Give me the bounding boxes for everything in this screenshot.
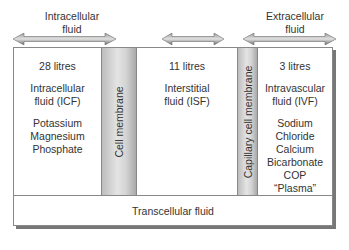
header-line: Intracellular: [22, 10, 122, 23]
capillary-membrane-label: Capillary cell membrane: [242, 65, 254, 178]
icf-solutes: Potassium Magnesium Phosphate: [14, 117, 101, 156]
extracellular-double-arrow-icon: [243, 33, 336, 45]
icf-compartment: 28 litres Intracellular fluid (ICF) Pota…: [14, 48, 101, 207]
capillary-cell-membrane: Capillary cell membrane: [237, 48, 258, 195]
solute: COP: [284, 169, 307, 181]
name-line: fluid (IVF): [272, 95, 318, 107]
isf-name: Interstitial fluid (ISF): [137, 82, 237, 108]
transcellular-fluid: Transcellular fluid: [14, 195, 332, 225]
solute: Phosphate: [32, 143, 82, 155]
name-line: fluid (ICF): [34, 95, 80, 107]
header-line: Extracellular: [245, 10, 345, 23]
solute: Calcium: [276, 143, 314, 155]
cell-membrane-label: Cell membrane: [113, 86, 125, 157]
interstitial-double-arrow-icon: [162, 33, 224, 45]
cell-membrane: Cell membrane: [101, 48, 137, 195]
ivf-volume: 3 litres: [258, 60, 332, 73]
icf-name: Intracellular fluid (ICF): [14, 82, 101, 108]
name-line: Intracellular: [30, 82, 84, 94]
icf-volume: 28 litres: [14, 60, 101, 73]
name-line: Intravascular: [265, 82, 325, 94]
solute: Sodium: [277, 117, 313, 129]
name-line: Interstitial: [165, 82, 210, 94]
ivf-compartment: 3 litres Intravascular fluid (IVF) Sodiu…: [258, 48, 332, 207]
solute: Magnesium: [30, 130, 84, 142]
fluid-compartments-diagram: 28 litres Intracellular fluid (ICF) Pota…: [13, 47, 333, 226]
name-line: fluid (ISF): [164, 95, 210, 107]
intracellular-double-arrow-icon: [13, 33, 116, 45]
solute: Potassium: [33, 117, 82, 129]
ivf-name: Intravascular fluid (IVF): [258, 82, 332, 108]
isf-volume: 11 litres: [137, 60, 237, 73]
solute: Bicarbonate: [267, 156, 323, 168]
isf-compartment: 11 litres Interstitial fluid (ISF): [137, 48, 237, 207]
solute: Chloride: [275, 130, 314, 142]
solute: “Plasma”: [274, 182, 316, 194]
ivf-solutes: Sodium Chloride Calcium Bicarbonate COP …: [258, 117, 332, 195]
